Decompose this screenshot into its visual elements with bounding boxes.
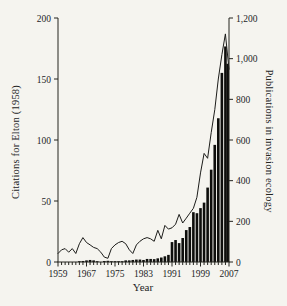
right-axis-title: Publications in invasion ecology bbox=[264, 69, 275, 212]
publications-bar bbox=[189, 227, 192, 262]
x-axis-tick-label: 1983 bbox=[134, 269, 153, 279]
left-axis-tick-label: 50 bbox=[42, 197, 52, 207]
publications-bar bbox=[196, 213, 199, 262]
x-axis-tick-label: 1991 bbox=[163, 269, 182, 279]
publications-bar bbox=[221, 73, 224, 262]
publications-bar bbox=[217, 118, 220, 262]
left-axis-tick-label: 0 bbox=[46, 258, 51, 268]
publications-bar bbox=[181, 238, 184, 262]
right-axis-tick-label: 0 bbox=[236, 258, 241, 268]
right-axis-tick-label: 200 bbox=[236, 217, 251, 227]
publications-bar bbox=[192, 212, 195, 262]
publications-bar bbox=[213, 145, 216, 262]
publications-bar bbox=[206, 188, 209, 262]
right-axis-tick-label: 800 bbox=[236, 95, 251, 105]
right-axis-tick-label: 600 bbox=[236, 136, 251, 146]
right-axis-tick-label: 1,000 bbox=[236, 54, 258, 64]
x-axis-title: Year bbox=[133, 281, 153, 293]
left-axis-tick-label: 150 bbox=[37, 75, 52, 85]
publications-bar bbox=[178, 243, 181, 262]
publications-bar bbox=[164, 256, 167, 262]
chart-canvas: 05010015020002004006008001,0001,20019591… bbox=[0, 0, 287, 306]
publications-bar bbox=[203, 203, 206, 262]
publications-bar bbox=[167, 255, 170, 262]
left-axis-tick-label: 100 bbox=[37, 136, 52, 146]
x-axis-tick-label: 1975 bbox=[106, 269, 125, 279]
publications-bar bbox=[171, 242, 174, 262]
figure: 05010015020002004006008001,0001,20019591… bbox=[0, 0, 287, 306]
publications-bar bbox=[185, 230, 188, 262]
publications-bar bbox=[160, 258, 163, 262]
right-axis-tick-label: 400 bbox=[236, 176, 251, 186]
x-axis-tick-label: 1999 bbox=[191, 269, 210, 279]
publications-bar bbox=[174, 240, 177, 262]
x-axis-tick-label: 1959 bbox=[49, 269, 68, 279]
publications-bar bbox=[156, 258, 159, 262]
left-axis-tick-label: 200 bbox=[37, 14, 52, 24]
x-axis-tick-label: 2007 bbox=[220, 269, 239, 279]
left-axis-title: Citations for Elton (1958) bbox=[10, 85, 21, 199]
publications-bar bbox=[199, 208, 202, 262]
publications-bar bbox=[224, 46, 227, 262]
x-axis-tick-label: 1967 bbox=[77, 269, 96, 279]
publications-bar bbox=[210, 170, 213, 262]
right-axis-tick-label: 1,200 bbox=[236, 14, 258, 24]
